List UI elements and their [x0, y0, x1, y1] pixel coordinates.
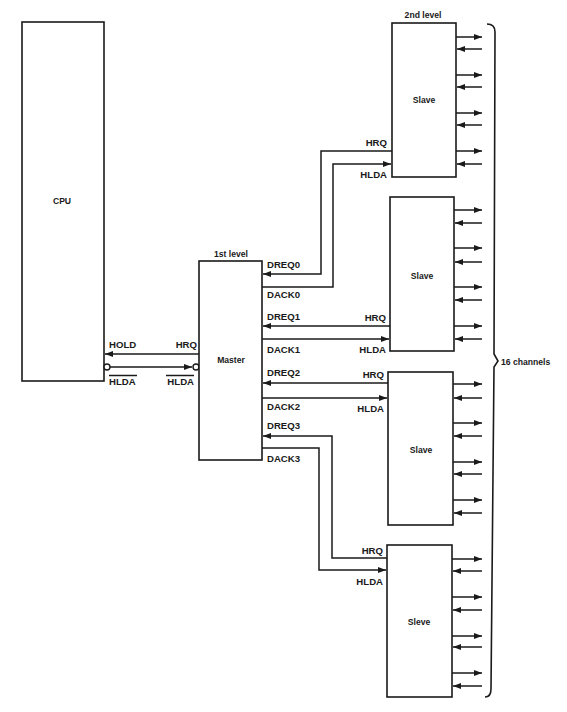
- master-hlda-inversion-bubble: [193, 364, 199, 370]
- cpu-label: CPU: [53, 196, 71, 206]
- slave-3: Slave HRQ HLDA: [357, 369, 453, 525]
- slave-1-label: Slave: [413, 95, 436, 105]
- slave-2-hlda-label: HLDA: [359, 344, 386, 355]
- cpu-block: CPU: [22, 22, 104, 381]
- slave-1-hrq-label: HRQ: [366, 137, 388, 148]
- slave-1-hlda-label: HLDA: [360, 169, 387, 180]
- dreq2-label: DREQ2: [267, 367, 300, 378]
- dack0-label: DACK0: [267, 289, 300, 300]
- slave-3-hrq-label: HRQ: [363, 369, 385, 380]
- cpu-hlda-inversion-bubble: [104, 364, 110, 370]
- master-block: 1st level Master: [199, 249, 262, 460]
- slave-4-hlda-label: HLDA: [356, 576, 383, 587]
- slave-4: Sleve HRQ HLDA: [356, 545, 452, 697]
- master-port-labels: DREQ0 DACK0 DREQ1 DACK1 DREQ2 DACK2 DREQ…: [267, 259, 301, 464]
- slave-1: Slave HRQ HLDA: [360, 23, 456, 180]
- dreq3-label: DREQ3: [267, 420, 300, 431]
- slave-4-label: Sleve: [408, 617, 431, 627]
- dack2-label: DACK2: [267, 401, 300, 412]
- master-label: Master: [217, 355, 245, 365]
- first-level-label: 1st level: [214, 249, 248, 259]
- master-hrq-label: HRQ: [176, 339, 198, 350]
- cpu-hold-label: HOLD: [109, 339, 136, 350]
- dreq1-label: DREQ1: [267, 311, 301, 322]
- cpu-hlda-label: HLDA: [109, 376, 136, 387]
- slave-2: Slave HRQ HLDA: [359, 197, 454, 355]
- master-slave-wires: [262, 151, 392, 570]
- slave-4-hrq-label: HRQ: [362, 545, 384, 556]
- slave-2-label: Slave: [411, 271, 434, 281]
- slave-3-hlda-label: HLDA: [357, 403, 384, 414]
- dack3-label: DACK3: [267, 453, 300, 464]
- channels-label: 16 channels: [501, 357, 550, 367]
- slave-2-hrq-label: HRQ: [365, 312, 387, 323]
- cpu-master-bus: HOLD HRQ HLDA HLDA: [104, 339, 199, 387]
- second-level-label: 2nd level: [405, 10, 442, 20]
- master-hlda-label: HLDA: [167, 376, 194, 387]
- channels-brace: [485, 24, 498, 697]
- dreq0-label: DREQ0: [267, 259, 300, 270]
- slave-3-label: Slave: [410, 445, 433, 455]
- dma-cascade-diagram: CPU HOLD HRQ HLDA HLDA 1st level Master …: [0, 0, 567, 712]
- dack1-label: DACK1: [267, 344, 301, 355]
